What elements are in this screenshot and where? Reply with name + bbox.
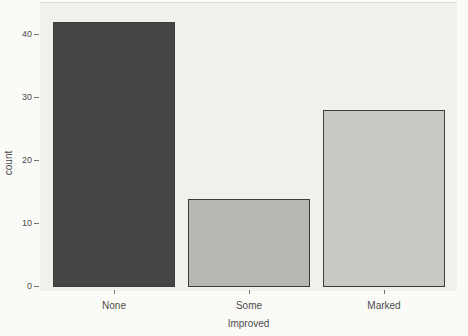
- y-tick-label-30: 30: [14, 93, 32, 102]
- bar-some: [188, 199, 310, 287]
- x-tick-label-some: Some: [209, 301, 289, 311]
- y-tick-label-10: 10: [14, 219, 32, 228]
- y-tick-label-40: 40: [14, 30, 32, 39]
- x-tick-mark: [249, 290, 250, 294]
- x-tick-mark: [114, 290, 115, 294]
- y-axis-title: count: [4, 133, 14, 193]
- y-tick-mark: [34, 160, 39, 161]
- x-axis-title: Improved: [199, 319, 299, 329]
- bar-marked: [323, 110, 445, 287]
- y-tick-label-0: 0: [14, 282, 32, 291]
- y-tick-label-20: 20: [14, 156, 32, 165]
- y-tick-mark: [34, 97, 39, 98]
- bar-none: [53, 22, 175, 287]
- y-tick-mark: [34, 223, 39, 224]
- plot-panel: [40, 2, 457, 291]
- bar-chart-figure: count Improved 010203040 NoneSomeMarked: [0, 0, 468, 336]
- x-tick-label-none: None: [74, 301, 154, 311]
- x-tick-label-marked: Marked: [344, 301, 424, 311]
- x-tick-mark: [384, 290, 385, 294]
- y-tick-mark: [34, 34, 39, 35]
- y-tick-mark: [34, 286, 39, 287]
